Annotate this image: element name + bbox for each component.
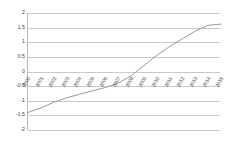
y-axis-tick-label: 1 xyxy=(1,40,25,45)
gridline xyxy=(28,130,220,131)
y-axis-tick-label: -2 xyxy=(1,127,25,132)
y-axis-tick-label: 0 xyxy=(1,69,25,74)
gridline xyxy=(28,42,220,43)
plot-area xyxy=(27,13,220,130)
line-chart: 21.510.50-0.5-1-1.5-2 200020012002200320… xyxy=(0,0,228,141)
gridline xyxy=(28,72,220,73)
y-axis-tick-label: -1.5 xyxy=(1,113,25,118)
gridline xyxy=(28,101,220,102)
y-axis-tick-label: 1.5 xyxy=(1,25,25,30)
series-line xyxy=(28,24,221,112)
y-axis-tick-label: 2 xyxy=(1,10,25,15)
gridline xyxy=(28,57,220,58)
gridline xyxy=(28,13,220,14)
y-axis-tick-label: 0.5 xyxy=(1,54,25,59)
y-axis-tick-label: -1 xyxy=(1,98,25,103)
gridline xyxy=(28,28,220,29)
gridline xyxy=(28,115,220,116)
